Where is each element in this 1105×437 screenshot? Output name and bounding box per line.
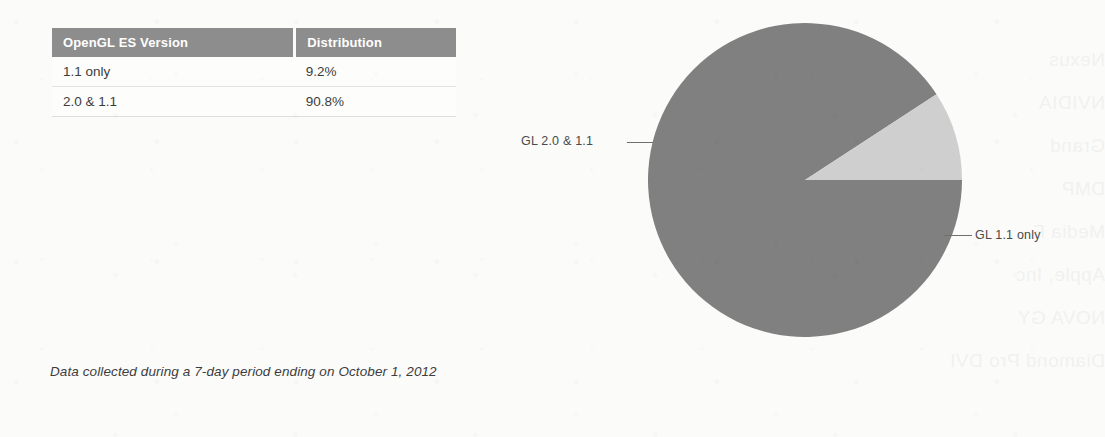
ghost-line: NOVA GY [945, 296, 1105, 339]
table-header-row: OpenGL ES Version Distribution [52, 28, 456, 57]
ghost-line: DMP [945, 167, 1105, 210]
ghost-line: Diamond Pro DVI [945, 339, 1105, 382]
cell-distribution: 9.2% [295, 57, 456, 87]
pie-label-gl11only: GL 1.1 only [975, 228, 1041, 242]
leader-line-major [627, 142, 653, 143]
ghost-line: Apple, Inc [945, 253, 1105, 296]
pie-svg [648, 23, 962, 337]
ghost-line: NVIDIA [945, 81, 1105, 124]
table-row: 1.1 only 9.2% [52, 57, 456, 87]
cell-version: 2.0 & 1.1 [52, 87, 295, 117]
cell-version: 1.1 only [52, 57, 295, 87]
ghost-line: Nexus [945, 38, 1105, 81]
column-header-version: OpenGL ES Version [52, 28, 295, 57]
column-header-distribution: Distribution [295, 28, 456, 57]
leader-line-minor [944, 235, 972, 236]
ghost-line: Grand [945, 124, 1105, 167]
opengl-distribution-pie-chart [648, 23, 962, 337]
table-row: 2.0 & 1.1 90.8% [52, 87, 456, 117]
cell-distribution: 90.8% [295, 87, 456, 117]
opengl-es-distribution-figure: Nexus NVIDIA Grand DMP Media F Apple, In… [0, 0, 1105, 437]
figure-caption: Data collected during a 7-day period end… [50, 364, 437, 379]
opengl-distribution-table: OpenGL ES Version Distribution 1.1 only … [52, 28, 456, 117]
pie-slice-gl20and11 [648, 23, 962, 337]
pie-label-gl20and11: GL 2.0 & 1.1 [521, 134, 593, 148]
page-bleedthrough-texture: Nexus NVIDIA Grand DMP Media F Apple, In… [945, 0, 1105, 437]
